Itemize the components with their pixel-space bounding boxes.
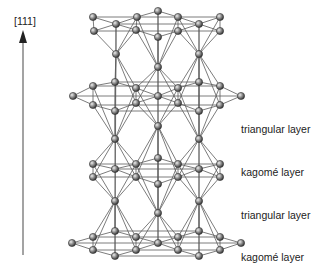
atom (216, 246, 223, 253)
atom (237, 92, 244, 99)
atom (69, 92, 76, 99)
atom (111, 165, 118, 172)
atom (174, 173, 181, 180)
atom (111, 135, 118, 142)
atom (174, 99, 181, 106)
atom (89, 246, 96, 253)
atom (195, 197, 202, 204)
atom (195, 227, 202, 234)
layer-label-kagome-2: kagomé layer (241, 251, 304, 263)
atom (132, 84, 139, 91)
atom (89, 101, 96, 108)
atom (174, 233, 181, 240)
bonds (72, 11, 241, 256)
atom (174, 13, 181, 20)
atom (132, 99, 139, 106)
atom (195, 135, 202, 142)
atom (216, 233, 223, 240)
atom (216, 27, 223, 34)
layer-label-triangular-2: triangular layer (241, 209, 310, 221)
atom (154, 7, 161, 14)
atom (154, 33, 161, 40)
atom (154, 180, 161, 187)
atom (195, 165, 202, 172)
pyrochlore-lattice-diagram (0, 0, 322, 277)
axis-label: [111] (14, 15, 36, 27)
atom (89, 160, 96, 167)
atom (90, 27, 97, 34)
atom (216, 13, 223, 20)
atom (132, 246, 139, 253)
atom (195, 78, 202, 85)
atom (112, 20, 119, 27)
atom (89, 173, 96, 180)
layer-label-triangular-1: triangular layer (241, 123, 310, 135)
atoms (68, 7, 244, 259)
axis-arrow-111 (19, 30, 27, 255)
atom (133, 13, 140, 20)
atom (216, 82, 223, 89)
atom (132, 160, 139, 167)
atom (216, 173, 223, 180)
atom (174, 84, 181, 91)
atom (154, 63, 161, 70)
atom (174, 27, 181, 34)
atom (111, 227, 118, 234)
atom (132, 26, 139, 33)
atom (154, 122, 161, 129)
atom (195, 50, 202, 57)
atom (111, 252, 118, 259)
atom (154, 92, 161, 99)
atom (174, 160, 181, 167)
atom (154, 209, 161, 216)
atom (237, 239, 244, 246)
atom (112, 50, 119, 57)
atom (111, 107, 118, 114)
atom (174, 246, 181, 253)
atom (195, 107, 202, 114)
atom (154, 239, 161, 246)
atom (216, 101, 223, 108)
atom (111, 78, 118, 85)
atom (154, 154, 161, 161)
atom (89, 82, 96, 89)
atom (195, 252, 202, 259)
atom (195, 20, 202, 27)
atom (89, 13, 96, 20)
atom (132, 173, 139, 180)
atom (111, 197, 118, 204)
atom (132, 233, 139, 240)
atom (68, 239, 75, 246)
layer-label-kagome-1: kagomé layer (241, 166, 304, 178)
atom (89, 233, 96, 240)
atom (216, 160, 223, 167)
